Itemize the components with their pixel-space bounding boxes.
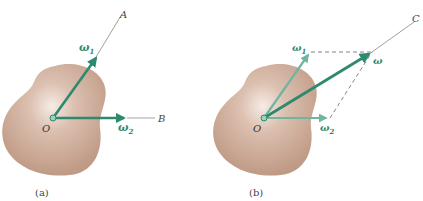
label-A: A [119,9,127,20]
label-B: B [157,113,165,124]
caption-b: (b) [249,187,263,198]
label-omega-2: ω2 [320,122,335,136]
panel-a: A B ω1 ω2 O (a) [2,9,165,198]
label-omega: ω [373,55,383,66]
axis-line-C [372,22,414,52]
label-omega-1: ω1 [292,42,306,56]
label-omega-2: ω2 [118,121,133,136]
diagram-figure: A B ω1 ω2 O (a) C ω1 ω2 ω O (b) [0,0,423,201]
origin-point [50,115,56,121]
origin-point [261,115,267,121]
label-C: C [412,13,420,24]
panel-b: C ω1 ω2 ω O (b) [213,13,420,198]
axis-line-A [96,14,122,57]
label-omega-1: ω1 [79,41,94,56]
label-origin-O: O [253,123,261,134]
parallelogram-right-dash [330,52,372,118]
label-origin-O: O [42,123,50,134]
caption-a: (a) [35,187,49,198]
